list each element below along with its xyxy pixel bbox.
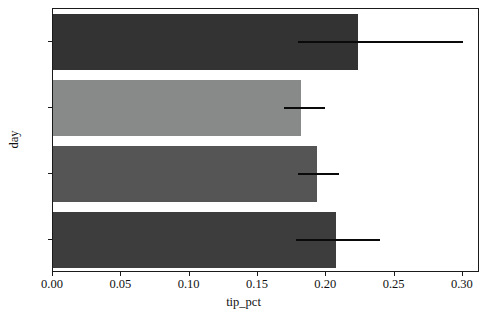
y-tick-mark-fri — [48, 239, 52, 240]
y-axis-label: day — [7, 110, 22, 170]
x-tick-label-1: 0.05 — [90, 278, 150, 291]
x-tick-label-5: 0.25 — [364, 278, 424, 291]
bar-thur — [53, 146, 317, 202]
x-tick-mark-4 — [325, 272, 326, 276]
plot-area — [52, 8, 479, 272]
x-tick-mark-0 — [52, 272, 53, 276]
x-tick-label-2: 0.10 — [159, 278, 219, 291]
bar-chart-figure: tip_pct day SunSatThurFri0.000.050.100.1… — [0, 0, 487, 320]
error-bar-sat — [284, 107, 325, 109]
x-tick-mark-2 — [189, 272, 190, 276]
x-tick-mark-6 — [462, 272, 463, 276]
x-tick-mark-1 — [120, 272, 121, 276]
x-tick-label-3: 0.15 — [227, 278, 287, 291]
error-bar-fri — [296, 239, 379, 241]
bar-fri — [53, 212, 336, 268]
y-tick-mark-sun — [48, 41, 52, 42]
error-bar-thur — [298, 173, 339, 175]
x-tick-mark-3 — [257, 272, 258, 276]
bar-sat — [53, 80, 301, 136]
x-tick-label-4: 0.20 — [295, 278, 355, 291]
x-tick-label-6: 0.30 — [432, 278, 487, 291]
y-tick-mark-thur — [48, 173, 52, 174]
error-bar-sun — [298, 41, 463, 43]
x-tick-mark-5 — [394, 272, 395, 276]
x-tick-label-0: 0.00 — [22, 278, 82, 291]
x-axis-label: tip_pct — [0, 295, 487, 310]
y-tick-mark-sat — [48, 107, 52, 108]
